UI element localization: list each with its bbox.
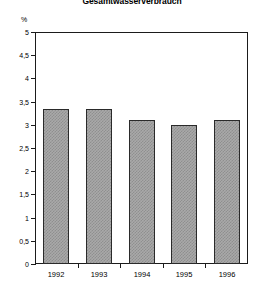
y-axis-tick-label: 4,5	[1, 52, 29, 59]
y-axis-tick	[31, 171, 36, 172]
x-axis-tick-label: 1992	[34, 270, 78, 279]
x-axis-tick	[163, 264, 164, 268]
y-axis-tick-label-wrap: 5	[0, 29, 29, 36]
bar-1996	[214, 120, 240, 264]
x-axis-tick-label: 1994	[120, 270, 164, 279]
y-axis-tick	[31, 102, 36, 103]
y-axis-tick-label: 3	[1, 122, 29, 129]
bar-1994	[129, 120, 155, 264]
y-axis-tick-label: 2	[1, 168, 29, 175]
y-axis-tick-label-wrap: 4,5	[0, 52, 29, 59]
y-axis-tick	[31, 125, 36, 126]
x-axis-tick-label: 1996	[205, 270, 249, 279]
y-axis-tick-label: 1	[1, 215, 29, 222]
chart-figure: Gesamtwasserverbrauch % 00,511,522,533,5…	[0, 0, 264, 294]
y-axis-tick	[31, 218, 36, 219]
x-axis-tick-label: 1995	[162, 270, 206, 279]
y-axis-tick-label: 4	[1, 75, 29, 82]
bar-1993	[86, 109, 112, 264]
y-axis-tick-label-wrap: 3,5	[0, 99, 29, 106]
y-axis-tick	[31, 194, 36, 195]
x-axis-tick	[120, 264, 121, 268]
y-axis-tick-label: 0	[1, 261, 29, 268]
y-axis-unit-label: %	[21, 16, 27, 23]
y-axis-tick-label-wrap: 1,5	[0, 191, 29, 198]
bar-1995	[171, 125, 197, 264]
x-axis-tick	[78, 264, 79, 268]
bar-1992	[43, 109, 69, 264]
y-axis-tick-label: 5	[1, 29, 29, 36]
y-axis-tick-label-wrap: 1	[0, 215, 29, 222]
x-axis-tick	[205, 264, 206, 268]
y-axis-tick	[31, 241, 36, 242]
y-axis-tick-label-wrap: 0	[0, 261, 29, 268]
y-axis-tick-label: 2,5	[1, 145, 29, 152]
y-axis-tick-label-wrap: 3	[0, 122, 29, 129]
y-axis-tick-label-wrap: 2	[0, 168, 29, 175]
y-axis-tick	[31, 32, 36, 33]
y-axis-tick	[31, 78, 36, 79]
y-axis-tick-label-wrap: 2,5	[0, 145, 29, 152]
y-axis-tick-label: 3,5	[1, 99, 29, 106]
y-axis-tick-label-wrap: 4	[0, 75, 29, 82]
x-axis-tick-label: 1993	[77, 270, 121, 279]
y-axis-tick	[31, 55, 36, 56]
y-axis-tick-label: 0,5	[1, 238, 29, 245]
y-axis-tick-label: 1,5	[1, 191, 29, 198]
chart-title: Gesamtwasserverbrauch	[0, 0, 264, 6]
y-axis-tick	[31, 264, 36, 265]
y-axis-tick	[31, 148, 36, 149]
y-axis-tick-label-wrap: 0,5	[0, 238, 29, 245]
